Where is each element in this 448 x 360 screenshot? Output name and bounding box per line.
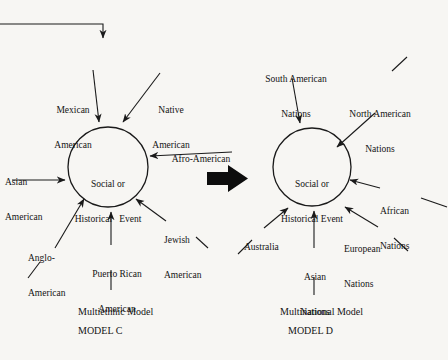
label-north-american-nations: North American Nations bbox=[336, 86, 424, 178]
label-south-american-nations-line2: Nations bbox=[252, 109, 340, 121]
label-south-american-nations-line1: South American bbox=[252, 74, 340, 86]
label-afro-american: Afro-American bbox=[166, 131, 236, 189]
label-south-american-nations: South American Nations bbox=[252, 51, 340, 143]
label-anglo-american-line2: American bbox=[28, 288, 88, 300]
label-african-nations-line1: African bbox=[380, 206, 436, 218]
label-european-nations: European Nations bbox=[344, 221, 404, 313]
model-c-caption-title: Multiethnic Model bbox=[78, 306, 153, 317]
label-asian-american-line2: American bbox=[5, 212, 63, 224]
label-north-american-nations-line2: Nations bbox=[336, 144, 424, 156]
label-north-american-nations-line1: North American bbox=[336, 109, 424, 121]
incoming-flow-arrow bbox=[0, 24, 103, 38]
label-australia: Australia bbox=[244, 219, 294, 277]
label-mexican-american-line1: Mexican bbox=[42, 105, 104, 117]
label-european-nations-line2: Nations bbox=[344, 279, 404, 291]
model-d-caption-id: MODEL D bbox=[288, 325, 333, 336]
model-d-event-line1: Social or bbox=[262, 179, 362, 191]
label-afro-american-line1: Afro-American bbox=[166, 154, 236, 166]
label-asian-nations-line1: Asian bbox=[292, 272, 338, 284]
label-puerto-rican-american-line1: Puerto Rican bbox=[82, 269, 152, 281]
label-european-nations-line1: European bbox=[344, 244, 404, 256]
model-c-caption-id: MODEL C bbox=[78, 325, 122, 336]
label-anglo-american-line1: Anglo- bbox=[28, 253, 88, 265]
label-australia-line1: Australia bbox=[244, 242, 294, 254]
label-asian-american-line1: Asian bbox=[5, 177, 63, 189]
tick-north-american-nations bbox=[392, 57, 407, 71]
label-mexican-american-line2: American bbox=[42, 140, 104, 152]
label-jewish-american: Jewish American bbox=[164, 212, 224, 304]
figure-page: Social or Historical Event Mexican Ameri… bbox=[0, 0, 448, 360]
label-native-american-line1: Native bbox=[143, 105, 199, 117]
model-c-event-line2: Historical Event bbox=[63, 214, 153, 226]
label-jewish-american-line2: American bbox=[164, 270, 224, 282]
label-jewish-american-line1: Jewish bbox=[164, 235, 224, 247]
model-c-event-line1: Social or bbox=[63, 179, 153, 191]
model-d-caption-title: Multinational Model bbox=[280, 306, 363, 317]
